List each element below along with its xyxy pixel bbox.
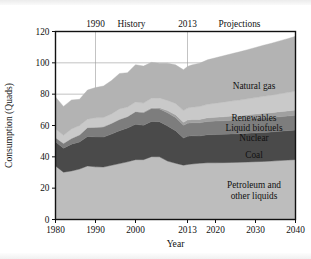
x-tick-label-2013: 2013 [178, 225, 197, 235]
series-annotation-liquid-biofuels: Liquid biofuels [225, 123, 282, 133]
header-label-projections: Projections [219, 19, 261, 29]
x-axis-title: Year [167, 238, 185, 249]
header-label-2013: 2013 [178, 19, 197, 29]
x-tick-label-2020: 2020 [206, 225, 225, 235]
y-tick-label-40: 40 [40, 152, 50, 162]
series-annotation-petroleum-line1: Petroleum and [227, 180, 281, 190]
header-label-1990: 1990 [86, 19, 105, 29]
y-tick-label-120: 120 [36, 27, 50, 37]
y-tick-label-80: 80 [40, 89, 50, 99]
y-tick-label-100: 100 [36, 58, 50, 68]
series-annotation-nuclear: Nuclear [239, 133, 269, 143]
scan-artifact-bottom [0, 253, 311, 259]
x-tick-label-1980: 1980 [46, 225, 65, 235]
y-tick-label-60: 60 [40, 121, 50, 131]
energy-consumption-stacked-area-chart: 1990History2013Projections02040608010012… [0, 0, 311, 259]
y-tick-label-0: 0 [45, 215, 50, 225]
series-annotation-renewables: Renewables [232, 113, 277, 123]
series-annotation-petroleum-line2: other liquids [231, 191, 278, 201]
y-axis-title: Consumption (Quads) [3, 83, 15, 168]
series-annotation-coal: Coal [245, 150, 263, 160]
chart-svg: 1990History2013Projections02040608010012… [0, 0, 311, 259]
x-tick-label-1990: 1990 [86, 225, 105, 235]
x-tick-label-2030: 2030 [246, 225, 265, 235]
x-tick-label-2040: 2040 [286, 225, 305, 235]
series-annotation-natural-gas: Natural gas [233, 81, 276, 91]
header-label-history: History [118, 19, 146, 29]
y-tick-label-20: 20 [40, 183, 50, 193]
x-tick-label-2000: 2000 [126, 225, 145, 235]
